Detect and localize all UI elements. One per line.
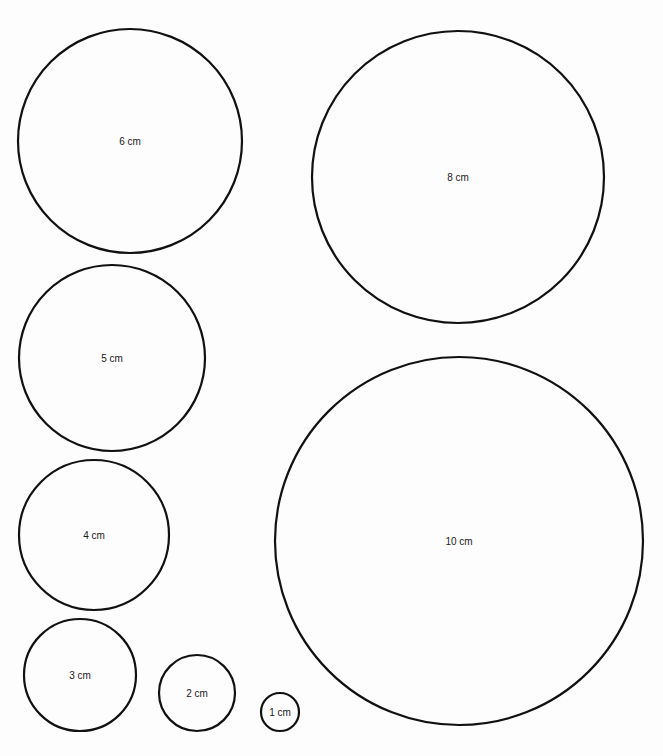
circle-label: 2 cm bbox=[186, 688, 208, 699]
circle-8cm: 8 cm bbox=[312, 31, 604, 323]
circle-1cm: 1 cm bbox=[261, 693, 299, 731]
circle-4cm: 4 cm bbox=[19, 460, 169, 610]
circle-label: 1 cm bbox=[269, 707, 291, 718]
circle-6cm: 6 cm bbox=[18, 29, 242, 253]
circle-label: 3 cm bbox=[69, 670, 91, 681]
circle-5cm: 5 cm bbox=[19, 265, 205, 451]
circle-10cm: 10 cm bbox=[275, 357, 643, 725]
circle-label: 10 cm bbox=[445, 536, 472, 547]
circle-sizes-diagram: 6 cm 8 cm 5 cm 10 cm 4 cm 3 cm 2 cm 1 cm bbox=[0, 0, 663, 756]
circle-2cm: 2 cm bbox=[159, 655, 235, 731]
circle-3cm: 3 cm bbox=[24, 619, 136, 731]
circle-label: 6 cm bbox=[119, 136, 141, 147]
circle-label: 5 cm bbox=[101, 353, 123, 364]
circle-label: 4 cm bbox=[83, 530, 105, 541]
circle-label: 8 cm bbox=[447, 172, 469, 183]
